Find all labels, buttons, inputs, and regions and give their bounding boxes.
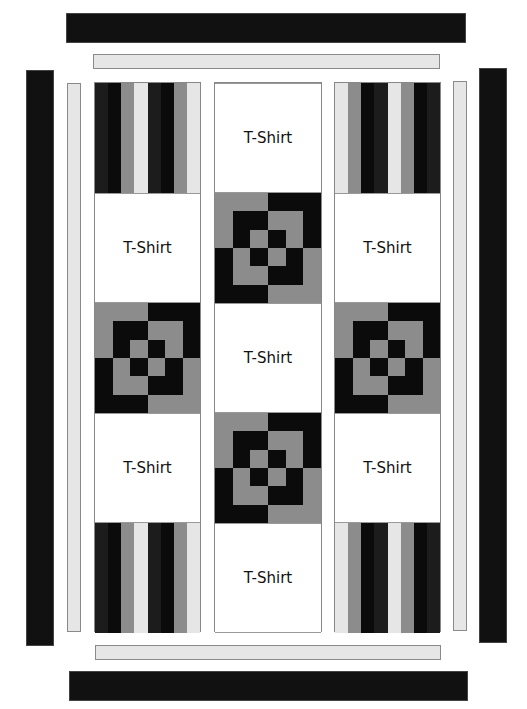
pinwheel-cell-black — [303, 230, 321, 248]
pinwheel-cell-gray — [423, 376, 441, 394]
pinwheel-cell-black — [130, 358, 148, 376]
strip-gray — [121, 523, 134, 633]
strip-black — [161, 523, 174, 633]
pinwheel-cell-black — [95, 358, 113, 376]
pinwheel-cell-black — [215, 248, 233, 266]
pinwheel-cell-gray — [423, 395, 441, 413]
pinwheel-cell-gray — [113, 303, 131, 321]
pinwheel-cell-gray — [268, 468, 286, 486]
pinwheel-cell-gray — [130, 303, 148, 321]
pinwheel-cell-gray — [233, 413, 251, 431]
pinwheel-cell-black — [303, 413, 321, 431]
strip-dark — [148, 83, 161, 193]
pinwheel-cell-gray — [215, 431, 233, 449]
pinwheel-cell-gray — [95, 303, 113, 321]
pinwheel-cell-black — [353, 340, 371, 358]
pinwheel-cell-gray — [370, 376, 388, 394]
pinwheel-cell-black — [165, 358, 183, 376]
pinwheel-cell-gray — [405, 321, 423, 339]
tshirt-block: T-Shirt — [95, 413, 200, 523]
tshirt-block: T-Shirt — [215, 523, 321, 633]
pinwheel-cell-black — [250, 211, 268, 229]
pinwheel-cell-black — [405, 376, 423, 394]
tshirt-label: T-Shirt — [244, 569, 292, 587]
pinwheel-cell-black — [95, 376, 113, 394]
pinwheel-cell-black — [335, 376, 353, 394]
tshirt-block: T-Shirt — [335, 193, 440, 303]
center-column: T-ShirtT-ShirtT-Shirt — [214, 82, 322, 632]
pinwheel-cell-gray — [388, 321, 406, 339]
pinwheel-cell-gray — [303, 248, 321, 266]
pinwheel-cell-black — [268, 193, 286, 211]
pinwheel-cell-gray — [233, 266, 251, 284]
pinwheel-cell-gray — [268, 505, 286, 523]
pinwheel-cell-black — [215, 505, 233, 523]
pinwheel-cell-black — [286, 413, 304, 431]
pinwheel-cell-black — [268, 413, 286, 431]
pinwheel-cell-gray — [268, 431, 286, 449]
pinwheel-cell-gray — [95, 321, 113, 339]
pinwheel-cell-black — [250, 248, 268, 266]
tshirt-block: T-Shirt — [215, 83, 321, 193]
pinwheel-cell-gray — [148, 358, 166, 376]
strip-light — [187, 523, 200, 633]
pinwheel-cell-gray — [215, 413, 233, 431]
pinwheel-cell-black — [233, 230, 251, 248]
pinwheel-block — [95, 303, 200, 413]
pinwheel-cell-black — [405, 358, 423, 376]
pinwheel-cell-black — [388, 340, 406, 358]
border-top-inner — [93, 54, 440, 69]
pinwheel-cell-black — [233, 211, 251, 229]
pinwheel-cell-gray — [370, 303, 388, 321]
pinwheel-cell-gray — [303, 486, 321, 504]
strip-light — [134, 523, 147, 633]
pinwheel-cell-gray — [113, 358, 131, 376]
pinwheel-cell-gray — [250, 230, 268, 248]
strip-black — [361, 83, 374, 193]
pinwheel-cell-gray — [303, 505, 321, 523]
strip-black — [414, 83, 427, 193]
pinwheel-cell-black — [286, 248, 304, 266]
strip-black — [414, 523, 427, 633]
pinwheel-cell-black — [148, 376, 166, 394]
pinwheel-cell-gray — [215, 211, 233, 229]
pinwheel-cell-black — [215, 468, 233, 486]
pinwheel-cell-black — [388, 376, 406, 394]
pinwheel-cell-black — [130, 395, 148, 413]
left-column: T-ShirtT-Shirt — [94, 82, 201, 632]
pinwheel-cell-gray — [405, 395, 423, 413]
pinwheel-cell-gray — [165, 340, 183, 358]
pinwheel-cell-black — [286, 468, 304, 486]
border-top-outer — [66, 13, 466, 43]
pinwheel-cell-black — [130, 321, 148, 339]
strip-dark — [374, 83, 387, 193]
pinwheel-cell-gray — [303, 285, 321, 303]
pinwheel-cell-gray — [388, 395, 406, 413]
pinwheel-cell-black — [113, 395, 131, 413]
pinwheel-cell-black — [370, 358, 388, 376]
tshirt-block: T-Shirt — [335, 413, 440, 523]
pinwheel-cell-gray — [165, 395, 183, 413]
pinwheel-cell-gray — [303, 468, 321, 486]
pinwheel-cell-gray — [388, 358, 406, 376]
strip-dark — [95, 83, 108, 193]
pinwheel-cell-gray — [233, 193, 251, 211]
pinwheel-cell-black — [286, 486, 304, 504]
pinwheel-cell-black — [250, 468, 268, 486]
pinwheel-cell-black — [353, 321, 371, 339]
pinwheel-cell-black — [183, 303, 201, 321]
tshirt-block: T-Shirt — [95, 193, 200, 303]
strip-block — [335, 83, 440, 193]
pinwheel-cell-black — [405, 303, 423, 321]
pinwheel-cell-gray — [303, 266, 321, 284]
pinwheel-cell-black — [165, 376, 183, 394]
tshirt-label: T-Shirt — [123, 459, 171, 477]
pinwheel-cell-black — [370, 321, 388, 339]
pinwheel-cell-black — [303, 450, 321, 468]
pinwheel-cell-black — [268, 450, 286, 468]
strip-light — [187, 83, 200, 193]
tshirt-label: T-Shirt — [363, 459, 411, 477]
pinwheel-cell-black — [370, 395, 388, 413]
strip-block — [335, 523, 440, 633]
pinwheel-cell-black — [423, 340, 441, 358]
